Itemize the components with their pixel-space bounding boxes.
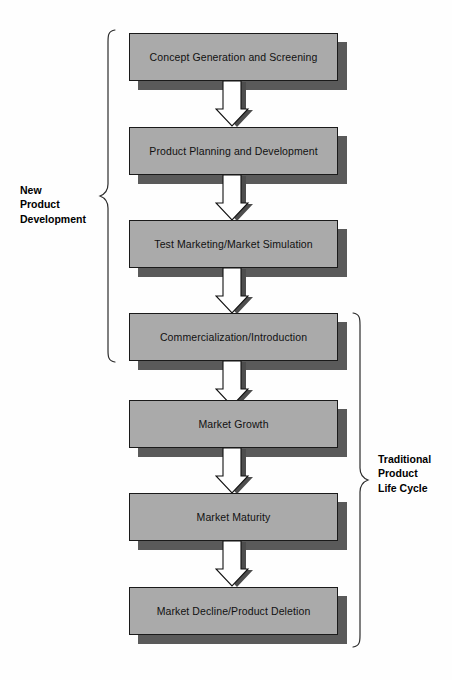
flow-arrow-maturity-to-decline (215, 541, 253, 588)
node-label: Market Maturity (197, 511, 271, 523)
node-label: Test Marketing/Market Simulation (154, 238, 312, 250)
node-label: Market Growth (198, 418, 268, 430)
node-face: Market Growth (129, 400, 338, 448)
node-label: Product Planning and Development (149, 145, 317, 157)
node-face: Market Decline/Product Deletion (129, 587, 338, 635)
process-node-market-decline[interactable]: Market Decline/Product Deletion (129, 587, 338, 635)
node-face: Product Planning and Development (129, 127, 338, 175)
process-node-commercialization[interactable]: Commercialization/Introduction (129, 313, 338, 361)
process-node-market-maturity[interactable]: Market Maturity (129, 493, 338, 541)
process-node-planning[interactable]: Product Planning and Development (129, 127, 338, 175)
node-label: Commercialization/Introduction (160, 331, 307, 343)
brace-traditional-product-life-cycle (352, 311, 370, 649)
flow-arrow-concept-to-planning (215, 81, 253, 128)
node-face: Concept Generation and Screening (129, 33, 338, 81)
flow-arrow-planning-to-test (215, 175, 253, 222)
diagram-canvas: New Product Development Traditional Prod… (0, 0, 452, 680)
process-node-market-growth[interactable]: Market Growth (129, 400, 338, 448)
flow-arrow-growth-to-maturity (215, 448, 253, 495)
node-face: Test Marketing/Market Simulation (129, 220, 338, 268)
node-face: Commercialization/Introduction (129, 313, 338, 361)
node-label: Market Decline/Product Deletion (157, 605, 311, 617)
process-node-concept[interactable]: Concept Generation and Screening (129, 33, 338, 81)
node-face: Market Maturity (129, 493, 338, 541)
group-caption-new-product-development: New Product Development (20, 183, 86, 226)
process-node-test-marketing[interactable]: Test Marketing/Market Simulation (129, 220, 338, 268)
node-label: Concept Generation and Screening (150, 51, 318, 63)
brace-new-product-development (98, 28, 116, 364)
group-caption-traditional-product-life-cycle: Traditional Product Life Cycle (378, 452, 431, 495)
flow-arrow-test-to-commercialization (215, 268, 253, 315)
